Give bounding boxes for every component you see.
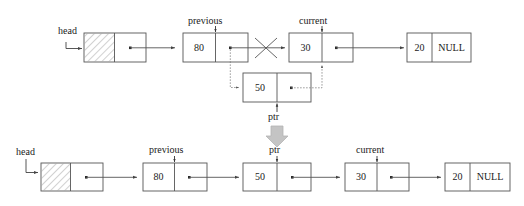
top-label-previous: previous [188,16,222,26]
top-node-20-data: 20 [407,43,432,53]
bottom-node-50-data: 50 [243,172,277,182]
bottom-label-previous: previous [149,145,183,155]
bottom-label-head: head [16,147,35,157]
top-node-80-data: 80 [183,43,215,53]
top-node-50-data: 50 [243,83,277,93]
bottom-label-ptr: ptr [269,145,280,155]
top-node-20-null: NULL [432,43,471,53]
bottom-node-30-data: 30 [345,172,377,182]
bottom-node-80-data: 80 [143,172,174,182]
top-label-head: head [58,26,77,36]
top-label-current: current [299,16,327,26]
linked-list-insertion-diagram: head previous current ptr 80 30 20 NULL … [0,0,524,206]
bottom-head-pointer-arrow [26,159,38,173]
top-head-pointer-arrow [66,42,82,49]
bottom-node-20-data: 20 [445,172,470,182]
bottom-label-current: current [356,145,384,155]
bottom-node-20-null: NULL [470,172,510,182]
top-label-ptr: ptr [268,112,279,122]
top-node-30-data: 30 [289,43,322,53]
